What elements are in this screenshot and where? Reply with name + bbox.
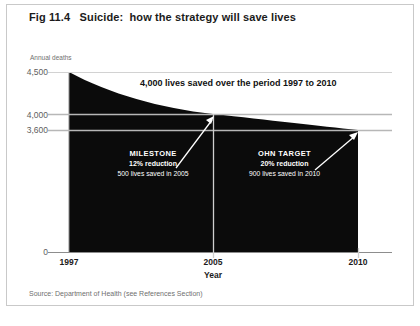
milestone-detail: 500 lives saved in 2005 (93, 169, 213, 179)
ohn-target-detail: 900 lives saved in 2010 (222, 169, 347, 179)
headline-annotation: 4,000 lives saved over the period 1997 t… (140, 78, 337, 88)
ohn-target-subtitle: 20% reduction (222, 159, 347, 169)
x-axis-title: Year (193, 270, 233, 280)
y-tick-label-3600: 3,600 (10, 125, 48, 135)
ohn-target-title: OHN TARGET (222, 148, 347, 159)
y-tick-label-4000: 4,000 (10, 110, 48, 120)
x-tick-label-2010: 2010 (338, 257, 378, 267)
milestone-annotation: MILESTONE 12% reduction 500 lives saved … (93, 148, 213, 179)
y-tick-label-0: 0 (10, 247, 48, 257)
milestone-subtitle: 12% reduction (93, 159, 213, 169)
figure-panel: Fig 11.4 Suicide: how the strategy will … (0, 0, 420, 326)
milestone-title: MILESTONE (93, 148, 213, 159)
y-axis-title: Annual deaths (30, 54, 72, 61)
ohn-target-annotation: OHN TARGET 20% reduction 900 lives saved… (222, 148, 347, 179)
y-tick-label-4500: 4,500 (10, 67, 48, 77)
source-note: Source: Department of Health (see Refere… (29, 290, 203, 297)
x-tick-label-1997: 1997 (49, 257, 89, 267)
x-tick-label-2005: 2005 (193, 257, 233, 267)
